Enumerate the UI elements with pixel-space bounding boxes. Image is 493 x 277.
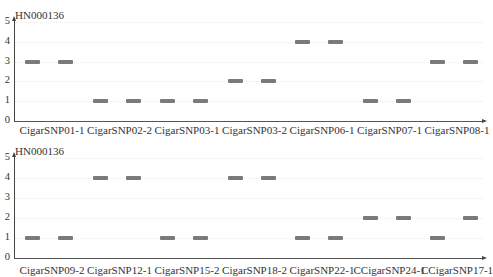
x-category-label: CigarSNP08-1 <box>421 124 493 136</box>
x-axis-arrow-icon <box>482 119 487 123</box>
band-marker <box>261 79 276 83</box>
x-category-label: CigarSNP18-2 <box>219 264 291 276</box>
band-marker <box>93 176 108 180</box>
y-axis <box>14 156 15 258</box>
band-marker <box>430 60 445 64</box>
y-tick-label: 0 <box>0 114 10 125</box>
band-marker <box>396 99 411 103</box>
gridline <box>15 42 483 43</box>
x-category-label: CCigarSNP17-1 <box>421 264 493 276</box>
y-tick-label: 2 <box>0 211 10 222</box>
gridline <box>15 158 483 159</box>
y-axis <box>14 20 15 121</box>
y-tick-label: 1 <box>0 94 10 105</box>
gridline <box>15 62 483 63</box>
band-marker <box>328 236 343 240</box>
y-tick-label: 3 <box>0 191 10 202</box>
band-marker <box>160 236 175 240</box>
gridline <box>15 81 483 82</box>
x-category-label: CigarSNP09-2 <box>16 264 88 276</box>
gridline <box>15 22 483 23</box>
x-category-label: CigarSNP12-1 <box>84 264 156 276</box>
y-axis-arrow-icon <box>12 152 16 157</box>
band-marker <box>58 60 73 64</box>
band-marker <box>463 216 478 220</box>
y-axis-arrow-icon <box>12 16 16 21</box>
y-tick-label: 2 <box>0 74 10 85</box>
band-marker <box>160 99 175 103</box>
y-tick-label: 5 <box>0 15 10 26</box>
y-tick-label: 0 <box>0 251 10 262</box>
x-category-label: CigarSNP01-1 <box>16 124 88 136</box>
band-marker <box>25 60 40 64</box>
x-category-label: CCigarSNP24-1 <box>354 264 426 276</box>
gridline <box>15 101 483 102</box>
x-category-label: CigarSNP22-1 <box>286 264 358 276</box>
band-marker <box>261 176 276 180</box>
band-marker <box>396 216 411 220</box>
chart-panel-bottom: HN000136012345CigarSNP09-2CigarSNP12-1Ci… <box>0 138 488 277</box>
band-marker <box>126 176 141 180</box>
band-marker <box>93 99 108 103</box>
band-marker <box>126 99 141 103</box>
gene-title: HN000136 <box>15 145 64 157</box>
x-category-label: CigarSNP02-2 <box>84 124 156 136</box>
x-axis-arrow-icon <box>482 256 487 260</box>
y-tick-label: 3 <box>0 55 10 66</box>
band-marker <box>430 236 445 240</box>
x-category-label: CigarSNP03-1 <box>151 124 223 136</box>
x-category-label: CigarSNP06-1 <box>286 124 358 136</box>
band-marker <box>363 99 378 103</box>
band-marker <box>463 60 478 64</box>
band-marker <box>363 216 378 220</box>
band-marker <box>228 79 243 83</box>
gridline <box>15 218 483 219</box>
y-tick-label: 4 <box>0 35 10 46</box>
x-axis <box>14 258 483 259</box>
band-marker <box>228 176 243 180</box>
y-tick-label: 4 <box>0 171 10 182</box>
gene-title: HN000136 <box>15 9 64 21</box>
band-marker <box>295 40 310 44</box>
x-category-label: CigarSNP07-1 <box>354 124 426 136</box>
x-category-label: CigarSNP15-2 <box>151 264 223 276</box>
band-marker <box>193 99 208 103</box>
x-axis <box>14 121 483 122</box>
x-category-label: CigarSNP03-2 <box>219 124 291 136</box>
chart-panel-top: HN000136012345CigarSNP01-1CigarSNP02-2Ci… <box>0 0 488 138</box>
gridline <box>15 198 483 199</box>
y-tick-label: 5 <box>0 151 10 162</box>
band-marker <box>58 236 73 240</box>
band-marker <box>295 236 310 240</box>
gridline <box>15 238 483 239</box>
band-marker <box>193 236 208 240</box>
gridline <box>15 178 483 179</box>
band-marker <box>328 40 343 44</box>
band-marker <box>25 236 40 240</box>
y-tick-label: 1 <box>0 231 10 242</box>
